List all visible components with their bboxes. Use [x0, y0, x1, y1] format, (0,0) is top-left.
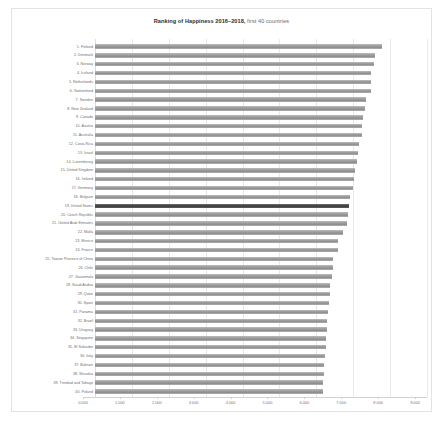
bar: [95, 301, 329, 305]
bar-row: 32. Brazil: [95, 317, 427, 326]
y-axis-label: 22. Malta: [78, 228, 93, 237]
y-axis-label: 17. Germany: [72, 184, 93, 193]
bar-row: 19. United States: [95, 202, 427, 211]
bar: [95, 212, 348, 216]
y-axis-label: 14. Luxembourg: [66, 158, 93, 167]
bar-row: 3. Norway: [95, 61, 427, 70]
bar-row: 18. Belgium: [95, 193, 427, 202]
bar-row: 26. Chile: [95, 264, 427, 273]
y-axis-label: 18. Belgium: [74, 193, 93, 202]
bar: [95, 354, 325, 358]
bar: [95, 115, 363, 119]
x-tick-mark: [378, 397, 379, 399]
gridline-9.000: [427, 39, 428, 397]
bar-row: 25. Taiwan Province of China: [95, 255, 427, 264]
bar-row: 34. Singapore: [95, 335, 427, 344]
y-axis-label: 13. Israel: [78, 149, 93, 158]
x-tick-mark: [157, 397, 158, 399]
bar: [95, 319, 327, 323]
y-axis-label: 8. New Zealand: [67, 105, 93, 114]
bar-row: 1. Finland: [95, 43, 427, 52]
bar: [95, 204, 349, 208]
bar-row: 11. Australia: [95, 131, 427, 140]
y-axis-label: 27. Guatemala: [69, 273, 93, 282]
x-tick-label: 5.000: [263, 400, 273, 405]
bar-row: 5. Netherlands: [95, 78, 427, 87]
bar: [95, 44, 382, 48]
bar: [95, 159, 357, 163]
y-axis-label: 5. Netherlands: [69, 78, 93, 87]
y-axis-label: 33. Uruguay: [73, 326, 93, 335]
bar: [95, 389, 323, 393]
x-tick-label: 3.000: [189, 400, 199, 405]
bar: [95, 151, 358, 155]
bar: [95, 133, 362, 137]
bar: [95, 363, 324, 367]
bar: [95, 248, 338, 252]
y-axis-label: 16. Ireland: [76, 175, 93, 184]
bar-row: 39. Trinidad and Tobago: [95, 379, 427, 388]
bar-row: 13. Israel: [95, 149, 427, 158]
bar-row: 38. Slovakia: [95, 370, 427, 379]
x-tick-label: 0.000: [78, 400, 88, 405]
bar-row: 7. Sweden: [95, 96, 427, 105]
bar: [95, 230, 343, 234]
bar: [95, 265, 333, 269]
bar: [95, 372, 324, 376]
bar: [95, 177, 354, 181]
chart-frame: Ranking of Happiness 2016–2018, first 40…: [11, 8, 432, 412]
y-axis-label: 32. Brazil: [78, 317, 93, 326]
x-tick-label: 1.000: [115, 400, 125, 405]
y-axis-label: 25. Taiwan Province of China: [45, 255, 93, 264]
bar: [95, 97, 366, 101]
chart-figure: Ranking of Happiness 2016–2018, first 40…: [0, 0, 443, 421]
bar-row: 17. Germany: [95, 185, 427, 194]
x-tick-mark: [120, 397, 121, 399]
y-axis-label: 20. Czech Republic: [61, 211, 93, 220]
y-axis-label: 30. Spain: [77, 299, 93, 308]
bar: [95, 336, 326, 340]
bar-row: 23. Mexico: [95, 238, 427, 247]
bar-row: 6. Switzerland: [95, 87, 427, 96]
bar: [95, 283, 330, 287]
bar-row: 2. Denmark: [95, 52, 427, 61]
bar-row: 8. New Zealand: [95, 105, 427, 114]
y-axis-label: 2. Denmark: [74, 51, 93, 60]
bar-row: 9. Canada: [95, 114, 427, 123]
bar-row: 29. Qatar: [95, 291, 427, 300]
x-tick-mark: [267, 397, 268, 399]
y-axis-label: 3. Norway: [76, 60, 93, 69]
y-axis-label: 28. Saudi Arabia: [66, 281, 93, 290]
bar: [95, 221, 347, 225]
x-tick-label: 2.000: [152, 400, 162, 405]
x-tick-mark: [194, 397, 195, 399]
y-axis-label: 24. France: [75, 246, 93, 255]
bar: [95, 71, 371, 75]
y-axis-label: 12. Costa Rica: [69, 140, 93, 149]
y-axis-label: 6. Switzerland: [70, 87, 93, 96]
bar: [95, 142, 359, 146]
y-axis-label: 26. Chile: [78, 264, 93, 273]
y-axis-label: 19. United States: [65, 202, 93, 211]
bar: [95, 62, 374, 66]
bar-row: 27. Guatemala: [95, 273, 427, 282]
x-axis-line: [84, 397, 427, 398]
bar: [95, 239, 338, 243]
bar-rows: 1. Finland2. Denmark3. Norway4. Iceland5…: [95, 43, 427, 397]
x-tick-label: 8.000: [373, 400, 383, 405]
bar: [95, 124, 362, 128]
bar-row: 31. Panama: [95, 308, 427, 317]
chart-title: Ranking of Happiness 2016–2018, first 40…: [12, 18, 431, 24]
y-axis-label: 29. Qatar: [78, 290, 93, 299]
bar: [95, 186, 353, 190]
bar-row: 24. France: [95, 246, 427, 255]
y-axis-label: 35. El Salvador: [68, 343, 93, 352]
bar-row: 4. Iceland: [95, 70, 427, 79]
bar: [95, 292, 330, 296]
bar: [95, 53, 375, 57]
y-axis-label: 31. Panama: [73, 308, 93, 317]
y-axis-label: 21. United Arab Emirates: [52, 219, 93, 228]
y-axis-label: 15. United Kingdom: [61, 166, 93, 175]
bar-row: 21. United Arab Emirates: [95, 220, 427, 229]
y-axis-label: 10. Austria: [76, 122, 93, 131]
